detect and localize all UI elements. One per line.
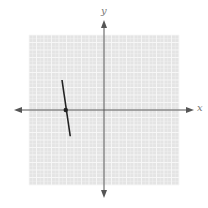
y-axis-up-arrow-icon	[101, 20, 107, 28]
x-axis-left-arrow-icon	[14, 107, 22, 113]
coordinate-plane	[0, 0, 208, 208]
x-axis-label: x	[197, 102, 203, 113]
intercept-point	[64, 108, 68, 112]
y-axis-down-arrow-icon	[101, 190, 107, 198]
x-axis-right-arrow-icon	[186, 107, 194, 113]
y-axis-label: y	[101, 5, 107, 16]
